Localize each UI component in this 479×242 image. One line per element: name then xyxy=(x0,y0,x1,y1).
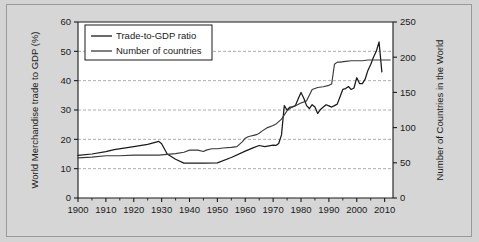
x-tick-label: 1980 xyxy=(290,204,311,215)
x-tick-label: 1970 xyxy=(263,204,284,215)
x-tick-label: 1960 xyxy=(235,204,256,215)
x-tick-label: 1940 xyxy=(179,204,200,215)
chart-legend: Trade-to-GDP ratioNumber of countries xyxy=(85,25,212,60)
legend-label-2: Number of countries xyxy=(116,45,202,56)
x-tick-label: 1920 xyxy=(123,204,144,215)
chart-screenshot: 1900191019201930194019501960197019801990… xyxy=(0,0,479,242)
y-tick-label: 60 xyxy=(60,16,71,27)
x-tick-label: 2000 xyxy=(346,204,367,215)
y2-tick-label: 150 xyxy=(400,87,416,98)
y2-tick-label: 50 xyxy=(400,157,411,168)
x-tick-label: 1910 xyxy=(95,204,116,215)
y-axis-title: World Merchandise trade to GDP (%) xyxy=(29,32,40,189)
y-tick-label: 30 xyxy=(60,104,71,115)
x-tick-label: 1900 xyxy=(67,204,88,215)
x-axis-tick-labels: 1900191019201930194019501960197019801990… xyxy=(67,204,395,215)
y2-tick-label: 100 xyxy=(400,122,416,133)
y-axis-tick-labels: 0102030405060 xyxy=(60,16,71,203)
y-tick-label: 50 xyxy=(60,46,71,57)
y-tick-label: 0 xyxy=(66,192,71,203)
x-tick-label: 1990 xyxy=(318,204,339,215)
y2-axis-tick-labels: 050100150200250 xyxy=(400,16,416,203)
x-tick-label: 1950 xyxy=(207,204,228,215)
y2-tick-label: 0 xyxy=(400,192,405,203)
y-tick-label: 20 xyxy=(60,134,71,145)
legend-label-1: Trade-to-GDP ratio xyxy=(116,30,196,41)
chart-canvas: 1900191019201930194019501960197019801990… xyxy=(0,0,479,242)
y2-tick-label: 250 xyxy=(400,16,416,27)
x-tick-label: 1930 xyxy=(151,204,172,215)
y-tick-label: 40 xyxy=(60,75,71,86)
y2-axis-title: Number of Countries in the World xyxy=(434,40,445,181)
x-tick-label: 2010 xyxy=(374,204,395,215)
y2-tick-label: 200 xyxy=(400,52,416,63)
y-tick-label: 10 xyxy=(60,163,71,174)
